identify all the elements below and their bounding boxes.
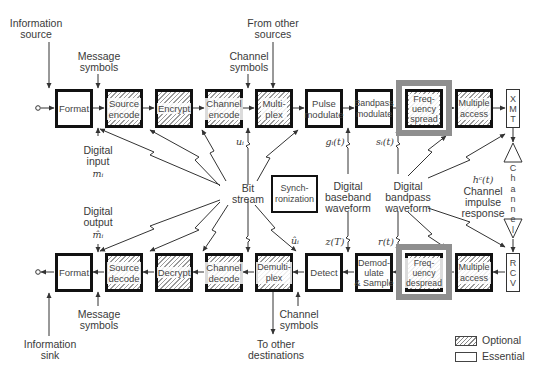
z-T-symbol: z(T)	[322, 236, 348, 247]
channel-impulse-response-label: Channel impulse response	[458, 186, 508, 219]
information-sink-label: Information sink	[14, 339, 86, 361]
message-symbols-top-label: Message symbols	[72, 51, 126, 73]
demultiplex-block: Demulti- plex	[255, 253, 293, 292]
demodulate-sample-block: Demod- ulate & Sample	[355, 253, 393, 292]
block-label: Format	[59, 103, 89, 114]
synchronization-block: Synch- ronization	[271, 175, 318, 213]
legend-essential-swatch	[455, 352, 477, 362]
block-label: Pulse modulate	[304, 98, 343, 120]
digital-output-label: Digital output	[78, 206, 118, 228]
legend-optional-label: Optional	[482, 334, 521, 346]
block-label: Encrypt	[157, 103, 191, 114]
channel-encode-block: Channel encode	[205, 89, 243, 128]
frequency-spread-block: Freq- uency spread	[405, 89, 443, 128]
h-c-t-symbol: hᶜ(t)	[470, 174, 496, 185]
multiple-access-block-tx: Multiple access	[455, 89, 493, 128]
block-label: Channel decode	[205, 262, 242, 284]
communication-system-diagram: Format Source encode Encrypt Channel enc…	[0, 0, 548, 381]
block-label: Freq- uency despread	[405, 258, 443, 288]
digital-bandpass-waveform-label: Digital bandpass waveform	[381, 181, 435, 214]
rcv-block: R C V	[506, 253, 520, 292]
format-block-tx: Format	[55, 89, 93, 128]
channel-symbols-bottom-label: Channel symbols	[272, 309, 326, 331]
block-label: Multiple access	[458, 262, 491, 284]
block-label: X M T	[509, 94, 517, 124]
block-label: Multi- plex	[261, 98, 286, 120]
encrypt-block: Encrypt	[155, 89, 193, 128]
source-decode-block: Source decode	[105, 253, 143, 292]
detect-block: Detect	[305, 253, 343, 292]
u-hat-i-symbol: ûᵢ	[289, 235, 301, 246]
r-t-symbol: r(t)	[376, 236, 396, 247]
multiple-access-block-rx: Multiple access	[455, 253, 493, 292]
from-other-sources-label: From other sources	[240, 18, 306, 40]
pulse-modulate-block: Pulse modulate	[305, 89, 343, 128]
digital-output-symbol: m̂ᵢ	[88, 229, 108, 240]
digital-input-label: Digital input	[78, 145, 118, 167]
digital-input-symbol: mᵢ	[88, 168, 108, 179]
block-label: Freq- uency spread	[409, 94, 439, 124]
decrypt-block: Decrypt	[155, 253, 193, 292]
block-label: Bandpass modulate	[354, 98, 393, 120]
block-label: Demulti- plex	[256, 262, 292, 284]
message-symbols-bottom-label: Message symbols	[72, 309, 126, 331]
block-label: R C V	[510, 258, 517, 288]
block-label: Channel encode	[205, 98, 242, 120]
s-i-t-symbol: sᵢ(t)	[373, 136, 397, 147]
to-other-destinations-label: To other destinations	[243, 339, 309, 361]
channel-label: C h a n n e l	[508, 163, 518, 235]
block-label: Format	[59, 267, 89, 278]
block-label: Demod- ulate & Sample	[354, 258, 393, 288]
information-source-label: Information source	[0, 18, 72, 40]
digital-baseband-waveform-label: Digital baseband waveform	[322, 181, 374, 214]
channel-symbols-top-label: Channel symbols	[222, 51, 276, 73]
format-block-rx: Format	[55, 253, 93, 292]
block-label: Synch- ronization	[275, 183, 314, 205]
block-label: Multiple access	[458, 98, 491, 120]
legend-optional-swatch	[455, 336, 477, 346]
block-label: Source encode	[107, 98, 140, 120]
frequency-despread-block: Freq- uency despread	[405, 253, 443, 292]
source-encode-block: Source encode	[105, 89, 143, 128]
g-i-t-symbol: gᵢ(t)	[322, 136, 348, 147]
channel-decode-block: Channel decode	[205, 253, 243, 292]
block-label: Source decode	[107, 262, 140, 284]
bit-stream-label: Bit stream	[226, 183, 270, 205]
xmt-block: X M T	[506, 89, 520, 128]
multiplex-block: Multi- plex	[255, 89, 293, 128]
u-i-symbol: uᵢ	[234, 136, 246, 147]
block-label: Decrypt	[157, 267, 192, 278]
bandpass-modulate-block: Bandpass modulate	[355, 89, 393, 128]
legend-essential-label: Essential	[482, 350, 525, 362]
block-label: Detect	[310, 267, 337, 278]
